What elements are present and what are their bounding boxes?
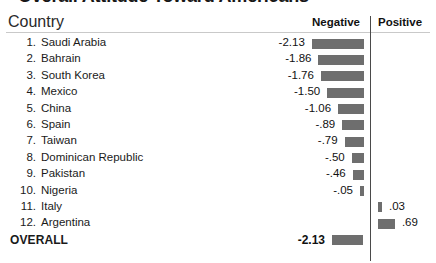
row-rank: 2. [10, 52, 36, 64]
positive-bar [378, 202, 382, 212]
country-name: Italy [41, 200, 62, 212]
overall-row: OVERALL-2.13 [0, 232, 436, 248]
value-label: -.46 [326, 167, 346, 179]
row-rank: 11. [10, 200, 36, 212]
country-name: Bahrain [41, 52, 81, 64]
value-label: -.50 [325, 151, 345, 163]
row-rank: 10. [10, 184, 36, 196]
value-label: -1.50 [294, 85, 320, 97]
value-label: -2.13 [298, 233, 325, 247]
country-name: Mexico [41, 85, 77, 97]
row-rank: 9. [10, 167, 36, 179]
table-row: 1.Saudi Arabia-2.13 [0, 35, 436, 51]
row-rank: 3. [10, 69, 36, 81]
country-name: Spain [41, 118, 70, 130]
value-label: -.79 [318, 134, 338, 146]
country-rows: 1.Saudi Arabia-2.132.Bahrain-1.863.South… [0, 35, 436, 248]
positive-bar [378, 219, 395, 229]
negative-bar [327, 88, 364, 98]
negative-bar [353, 170, 364, 180]
value-label: -1.76 [288, 69, 314, 81]
column-header-country: Country [8, 13, 64, 31]
table-row: 12.Argentina.69 [0, 215, 436, 231]
negative-bar [360, 186, 364, 196]
country-name: Pakistan [41, 167, 85, 179]
negative-bar [312, 39, 364, 49]
table-row: 3.South Korea-1.76 [0, 68, 436, 84]
table-row: 4.Mexico-1.50 [0, 84, 436, 100]
table-row: 10.Nigeria-.05 [0, 183, 436, 199]
row-rank: 5. [10, 102, 36, 114]
value-label: -1.86 [285, 52, 311, 64]
column-header-negative: Negative [312, 16, 360, 28]
row-rank: 7. [10, 134, 36, 146]
overall-label: OVERALL [10, 233, 68, 247]
column-header-positive: Positive [378, 16, 422, 28]
negative-bar [318, 55, 364, 65]
value-label: -1.06 [305, 102, 331, 114]
value-label: -.89 [315, 118, 335, 130]
negative-bar [352, 153, 364, 163]
table-row: 7.Taiwan-.79 [0, 133, 436, 149]
country-name: Argentina [41, 216, 90, 228]
table-row: 8.Dominican Republic-.50 [0, 150, 436, 166]
country-name: Saudi Arabia [41, 36, 106, 48]
row-rank: 4. [10, 85, 36, 97]
row-rank: 1. [10, 36, 36, 48]
country-name: South Korea [41, 69, 105, 81]
row-rank: 8. [10, 151, 36, 163]
value-label: -.05 [333, 184, 353, 196]
negative-bar [338, 104, 364, 114]
country-name: China [41, 102, 71, 114]
negative-bar [321, 71, 364, 81]
table-row: 9.Pakistan-.46 [0, 166, 436, 182]
country-name: Taiwan [41, 134, 77, 146]
table-row: 6.Spain-.89 [0, 117, 436, 133]
negative-bar [342, 120, 364, 130]
row-rank: 6. [10, 118, 36, 130]
table-row: 2.Bahrain-1.86 [0, 51, 436, 67]
country-name: Dominican Republic [41, 151, 143, 163]
header-divider [6, 32, 430, 33]
value-label: -2.13 [279, 36, 305, 48]
value-label: .69 [402, 216, 418, 228]
table-row: 5.China-1.06 [0, 101, 436, 117]
table-row: 11.Italy.03 [0, 199, 436, 215]
negative-bar [332, 235, 363, 245]
negative-bar [345, 137, 364, 147]
chart-title: Overall Attitude Toward Americans [18, 0, 309, 7]
row-rank: 12. [10, 216, 36, 228]
value-label: .03 [389, 200, 405, 212]
country-name: Nigeria [41, 184, 77, 196]
